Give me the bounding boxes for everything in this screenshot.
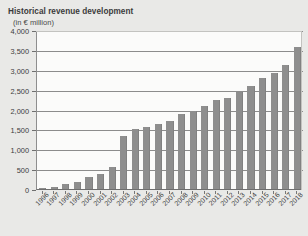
bar <box>259 78 266 189</box>
bar <box>132 129 139 189</box>
y-axis-tick-mark <box>32 150 36 151</box>
bar <box>39 188 46 189</box>
y-axis-tick-label: 3,000 <box>1 66 29 75</box>
bar <box>97 174 104 190</box>
bar-series <box>37 30 303 189</box>
y-axis-tick-mark <box>32 51 36 52</box>
bar <box>109 167 116 189</box>
y-axis-tick-mark <box>32 71 36 72</box>
bar <box>271 73 278 189</box>
y-axis-tick-label: 2,000 <box>1 106 29 115</box>
x-axis-labels: 1996199719981999200020012002200320042005… <box>36 191 302 236</box>
y-axis-tick-label: 500 <box>1 166 29 175</box>
y-axis-tick-mark <box>32 111 36 112</box>
y-axis: 05001,0001,5002,0002,5003,0003,5004,000 <box>0 31 36 191</box>
y-axis-tick-label: 1,500 <box>1 126 29 135</box>
bar <box>247 86 254 189</box>
y-axis-tick-label: 2,500 <box>1 86 29 95</box>
bar <box>85 177 92 189</box>
y-axis-tick-mark <box>32 170 36 171</box>
chart-title: Historical revenue development <box>8 7 133 16</box>
bar <box>190 111 197 189</box>
bar <box>143 127 150 189</box>
y-axis-tick-mark <box>32 130 36 131</box>
bar <box>213 100 220 189</box>
bar <box>294 47 301 189</box>
bar <box>224 98 231 189</box>
y-axis-tick-label: 1,000 <box>1 146 29 155</box>
bar <box>236 92 243 189</box>
y-axis-tick-mark <box>32 91 36 92</box>
y-axis-tick-label: 0 <box>1 186 29 195</box>
y-axis-tick-label: 4,000 <box>1 27 29 36</box>
bar <box>178 114 185 189</box>
bar <box>166 121 173 189</box>
bar <box>74 182 81 189</box>
bar <box>201 106 208 189</box>
y-axis-tick-mark <box>32 31 36 32</box>
plot-area <box>36 31 302 190</box>
bar <box>51 187 58 189</box>
bar <box>282 65 289 189</box>
y-axis-tick-label: 3,500 <box>1 46 29 55</box>
chart-container: Historical revenue development (in € mil… <box>0 0 308 236</box>
bar <box>155 124 162 189</box>
bar <box>120 136 127 189</box>
bar <box>62 184 69 189</box>
